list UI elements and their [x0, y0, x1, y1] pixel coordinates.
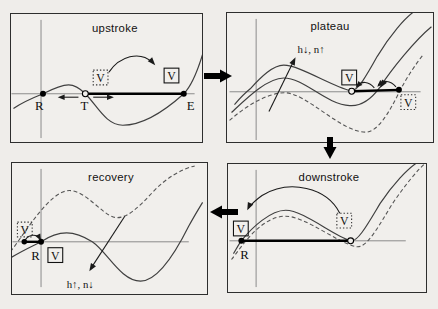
upstroke-plot: V V R T E upstroke [11, 14, 202, 142]
nullcline-dashed [230, 54, 424, 132]
label-T: T [80, 99, 88, 113]
panel-title: downstroke [299, 171, 360, 183]
panel-downstroke: V V R downstroke [227, 163, 427, 293]
v-transition-arc [248, 187, 340, 213]
v-label-solid: V [167, 69, 176, 83]
v-label-dotted: V [21, 223, 30, 237]
arrow-plateau-to-downstroke-head [324, 147, 337, 159]
tangent-point [348, 238, 354, 244]
label-R: R [35, 99, 44, 113]
v-transition-arrowhead [148, 57, 158, 67]
v-label-solid: V [51, 249, 60, 263]
gate-shift-arrow [269, 59, 295, 111]
panel-recovery: h↑, n↓ V V R recovery [11, 162, 208, 295]
tangent-point [349, 88, 355, 94]
flow-right-arrowhead [107, 94, 114, 100]
v-label-dotted: V [96, 71, 105, 85]
nullcline-curve [13, 51, 202, 125]
gate-shift-arrow [90, 216, 124, 269]
arrow-downstroke-to-recovery-head [210, 206, 222, 219]
v-label-solid: V [345, 71, 354, 85]
downstroke-plot: V V R downstroke [228, 164, 426, 292]
old-excited-point [396, 87, 402, 93]
current-v-point [22, 239, 28, 245]
panel-title: upstroke [92, 22, 138, 34]
panel-title: plateau [310, 20, 349, 32]
v-label-dotted: V [340, 214, 349, 228]
panel-plateau: h↓, n↑ V V plateau [226, 12, 434, 143]
v-transition-arc [109, 56, 152, 72]
panel-upstroke: V V R T E upstroke [10, 13, 203, 143]
v-label-dotted: V [404, 96, 413, 110]
gate-shift-arrowhead [289, 56, 298, 66]
panel-title: recovery [88, 171, 134, 183]
rest-point [38, 239, 44, 245]
excited-point [181, 91, 187, 97]
recovery-plot: h↑, n↓ V V R recovery [12, 163, 207, 294]
plateau-segment [352, 90, 399, 91]
label-R: R [31, 249, 40, 263]
label-E: E [187, 99, 195, 113]
v-label-solid: V [237, 222, 246, 236]
flow-left-arrowhead [58, 94, 65, 100]
gate-shift-arrowhead [87, 263, 96, 273]
label-R: R [240, 248, 249, 262]
rest-point [238, 238, 244, 244]
plateau-plot: h↓, n↑ V V plateau [227, 13, 433, 142]
threshold-point [82, 91, 88, 97]
nullcline-middle [232, 27, 432, 113]
gate-label: h↓, n↑ [298, 43, 325, 55]
figure-action-potential-phases: V V R T E upstroke h↓, n↑ [0, 0, 438, 309]
rest-point [40, 91, 46, 97]
gate-label: h↑, n↓ [67, 278, 94, 290]
